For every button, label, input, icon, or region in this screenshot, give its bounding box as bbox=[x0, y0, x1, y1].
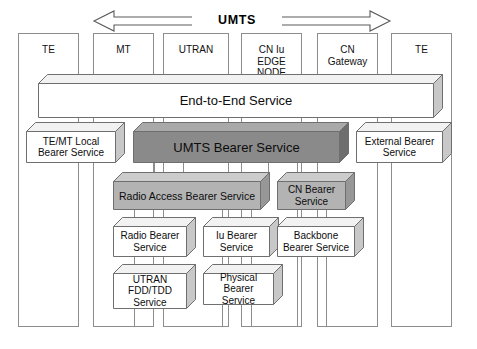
bearer-box-iu-bearer-service: Iu Bearer Service bbox=[203, 217, 279, 257]
connector-stub bbox=[268, 163, 269, 172]
connector-stub bbox=[134, 257, 135, 264]
connector-stub bbox=[163, 210, 164, 217]
connector-stub bbox=[297, 257, 298, 327]
bearer-box-front-face: Physical Bearer Service bbox=[203, 273, 274, 305]
bearer-box-label-external-bearer-service: External Bearer Service bbox=[362, 136, 437, 159]
connector-stub bbox=[297, 210, 298, 217]
bearer-box-front-face: Backbone Bearer Service bbox=[277, 226, 355, 257]
bearer-box-label-radio-access-bearer-service: Radio Access Bearer Service bbox=[116, 190, 258, 202]
bearer-box-te-mt-local-bearer-service: TE/MT Local Bearer Service bbox=[26, 122, 125, 163]
bearer-box-label-end-to-end-service: End-to-End Service bbox=[177, 93, 296, 108]
umts-span-label: UMTS bbox=[192, 12, 282, 28]
connector-stub bbox=[154, 163, 155, 172]
connector-stub bbox=[183, 163, 184, 172]
bearer-box-utran-fdd-tdd-service: UTRAN FDD/TDD Service bbox=[113, 264, 196, 309]
bearer-box-radio-access-bearer-service: Radio Access Bearer Service bbox=[113, 172, 270, 210]
connector-stub bbox=[326, 257, 327, 327]
bearer-box-front-face: Radio Access Bearer Service bbox=[113, 181, 261, 210]
connector-stub bbox=[297, 163, 298, 172]
connector-stub bbox=[222, 210, 223, 217]
bearer-box-label-physical-bearer-service: Physical Bearer Service bbox=[203, 272, 274, 307]
bearer-box-external-bearer-service: External Bearer Service bbox=[356, 122, 452, 163]
bearer-box-label-radio-bearer-service: Radio Bearer Service bbox=[118, 230, 183, 253]
bearer-box-front-face: End-to-End Service bbox=[38, 83, 434, 118]
bearer-box-front-face: Iu Bearer Service bbox=[203, 226, 270, 257]
bearer-box-label-cn-bearer-service: CN Bearer Service bbox=[285, 184, 338, 207]
bearer-box-backbone-bearer-service: Backbone Bearer Service bbox=[277, 217, 364, 257]
bearer-box-end-to-end-service: End-to-End Service bbox=[38, 74, 443, 118]
bearer-box-radio-bearer-service: Radio Bearer Service bbox=[113, 217, 196, 257]
bearer-box-front-face: External Bearer Service bbox=[356, 131, 443, 163]
connector-stub bbox=[251, 210, 252, 217]
domain-column-label-utran: UTRAN bbox=[164, 44, 228, 56]
bearer-box-cn-bearer-service: CN Bearer Service bbox=[277, 172, 355, 210]
umts-bearer-architecture-diagram: TEMTUTRANCN Iu EDGE NODECN GatewayTE UMT… bbox=[0, 0, 477, 349]
bearer-box-label-umts-bearer-service: UMTS Bearer Service bbox=[170, 140, 302, 155]
bearer-box-label-utran-fdd-tdd-service: UTRAN FDD/TDD Service bbox=[125, 274, 175, 309]
bearer-box-label-te-mt-local-bearer-service: TE/MT Local Bearer Service bbox=[35, 136, 107, 159]
bearer-box-umts-bearer-service: UMTS Bearer Service bbox=[133, 122, 349, 163]
domain-column-label-cn-gateway: CN Gateway bbox=[318, 44, 377, 67]
connector-stub bbox=[163, 257, 164, 264]
bearer-box-label-iu-bearer-service: Iu Bearer Service bbox=[213, 230, 260, 253]
bearer-box-front-face: CN Bearer Service bbox=[277, 181, 346, 210]
bearer-box-label-backbone-bearer-service: Backbone Bearer Service bbox=[280, 230, 352, 253]
connector-stub bbox=[251, 257, 252, 264]
connector-stub bbox=[326, 210, 327, 217]
bearer-box-front-face: UTRAN FDD/TDD Service bbox=[113, 273, 187, 309]
bearer-box-physical-bearer-service: Physical Bearer Service bbox=[203, 264, 283, 305]
domain-column-label-te-left: TE bbox=[19, 44, 78, 56]
bearer-box-front-face: Radio Bearer Service bbox=[113, 226, 187, 257]
domain-column-label-te-right: TE bbox=[392, 44, 451, 56]
connector-stub bbox=[134, 210, 135, 217]
domain-column-label-mt: MT bbox=[94, 44, 153, 56]
connector-stub bbox=[222, 257, 223, 264]
bearer-box-front-face: UMTS Bearer Service bbox=[133, 131, 340, 163]
bearer-box-front-face: TE/MT Local Bearer Service bbox=[26, 131, 116, 163]
